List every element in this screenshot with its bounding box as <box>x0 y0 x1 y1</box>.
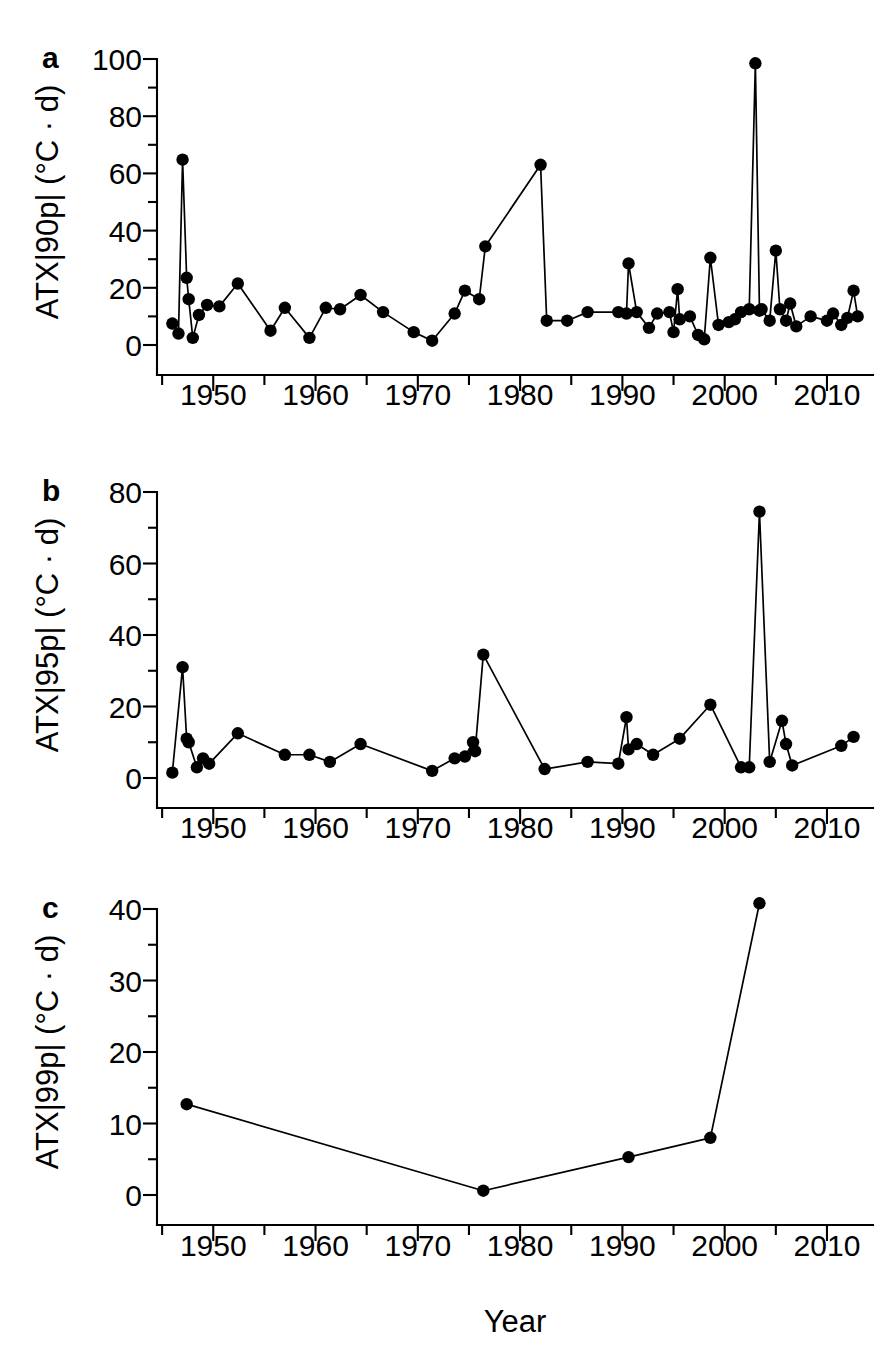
y-tick-label: 100 <box>92 43 142 76</box>
y-tick-label: 20 <box>109 272 142 305</box>
data-point-marker <box>776 715 788 727</box>
x-tick-label: 1950 <box>180 1229 247 1262</box>
y-axis-title: ATX|90p| (°C · d) <box>30 85 65 320</box>
x-tick-label: 1950 <box>180 378 247 411</box>
x-tick-label: 1980 <box>487 1229 554 1262</box>
data-point-marker <box>749 57 761 69</box>
x-tick-label: 1970 <box>384 811 451 844</box>
data-point-marker <box>469 745 481 757</box>
y-axis-title: ATX|95p| (°C · d) <box>30 518 65 753</box>
data-point-marker <box>232 277 244 289</box>
y-tick-label: 20 <box>109 691 142 724</box>
data-point-marker <box>684 310 696 322</box>
x-tick-label: 2010 <box>794 811 861 844</box>
data-point-marker <box>581 306 593 318</box>
y-tick-label: 60 <box>109 548 142 581</box>
data-point-marker <box>426 335 438 347</box>
data-point-marker <box>176 153 188 165</box>
data-point-marker <box>698 333 710 345</box>
data-point-marker <box>320 302 332 314</box>
panel-letter: a <box>42 41 59 74</box>
data-point-marker <box>561 314 573 326</box>
data-point-marker <box>835 740 847 752</box>
data-point-marker <box>183 293 195 305</box>
data-point-marker <box>279 749 291 761</box>
x-tick-label: 1990 <box>589 378 656 411</box>
data-point-marker <box>770 244 782 256</box>
y-tick-label: 80 <box>109 476 142 509</box>
y-tick-label: 80 <box>109 100 142 133</box>
data-point-marker <box>847 731 859 743</box>
chart-panel-a: 0204060801001950196019701980199020002010… <box>0 0 894 460</box>
data-point-marker <box>755 303 767 315</box>
data-point-marker <box>704 252 716 264</box>
chart-svg-a: 0204060801001950196019701980199020002010… <box>0 0 894 460</box>
data-point-marker <box>354 289 366 301</box>
data-point-marker <box>753 897 765 909</box>
data-point-marker <box>183 736 195 748</box>
x-tick-label: 1990 <box>589 1229 656 1262</box>
data-point-marker <box>354 738 366 750</box>
series-line <box>187 903 760 1190</box>
data-point-marker <box>827 307 839 319</box>
data-point-marker <box>612 758 624 770</box>
data-point-marker <box>851 310 863 322</box>
data-point-marker <box>477 1185 489 1197</box>
data-point-marker <box>203 758 215 770</box>
data-point-marker <box>541 314 553 326</box>
x-tick-label: 1990 <box>589 811 656 844</box>
x-tick-label: 1980 <box>487 811 554 844</box>
data-point-marker <box>786 759 798 771</box>
x-tick-label: 1960 <box>282 1229 349 1262</box>
panel-letter: c <box>42 891 59 924</box>
x-tick-label: 1970 <box>384 378 451 411</box>
data-point-marker <box>667 326 679 338</box>
x-tick-label: 2010 <box>794 1229 861 1262</box>
data-point-marker <box>479 240 491 252</box>
x-axis-title: Year <box>484 1304 547 1339</box>
data-point-marker <box>763 756 775 768</box>
data-point-marker <box>303 749 315 761</box>
chart-svg-b: 0204060801950196019701980199020002010bAT… <box>0 440 894 890</box>
data-point-marker <box>426 765 438 777</box>
data-point-marker <box>753 505 765 517</box>
x-tick-label: 1980 <box>487 378 554 411</box>
data-point-marker <box>172 327 184 339</box>
data-point-marker <box>324 756 336 768</box>
data-point-marker <box>631 738 643 750</box>
x-tick-label: 2000 <box>691 1229 758 1262</box>
data-point-marker <box>643 322 655 334</box>
data-point-marker <box>673 732 685 744</box>
data-point-marker <box>264 325 276 337</box>
y-tick-label: 40 <box>109 893 142 926</box>
data-point-marker <box>377 306 389 318</box>
y-axis-title: ATX|99p| (°C · d) <box>30 935 65 1170</box>
data-point-marker <box>581 756 593 768</box>
y-tick-label: 40 <box>109 619 142 652</box>
data-point-marker <box>180 272 192 284</box>
data-point-marker <box>538 763 550 775</box>
x-tick-label: 2010 <box>794 378 861 411</box>
data-point-marker <box>279 302 291 314</box>
data-point-marker <box>763 314 775 326</box>
data-point-marker <box>620 711 632 723</box>
data-point-marker <box>534 159 546 171</box>
data-point-marker <box>166 766 178 778</box>
data-point-marker <box>631 306 643 318</box>
data-point-marker <box>477 648 489 660</box>
data-point-marker <box>232 727 244 739</box>
data-point-marker <box>780 738 792 750</box>
data-point-marker <box>847 284 859 296</box>
series-line <box>172 63 857 340</box>
figure-root: 0204060801001950196019701980199020002010… <box>0 0 894 1366</box>
y-tick-label: 20 <box>109 1036 142 1069</box>
chart-panel-b: 0204060801950196019701980199020002010bAT… <box>0 440 894 890</box>
data-point-marker <box>176 661 188 673</box>
data-point-marker <box>804 310 816 322</box>
x-tick-label: 2000 <box>691 378 758 411</box>
x-tick-label: 1950 <box>180 811 247 844</box>
y-tick-label: 0 <box>125 329 142 362</box>
y-tick-label: 10 <box>109 1108 142 1141</box>
data-point-marker <box>790 320 802 332</box>
data-point-marker <box>704 699 716 711</box>
